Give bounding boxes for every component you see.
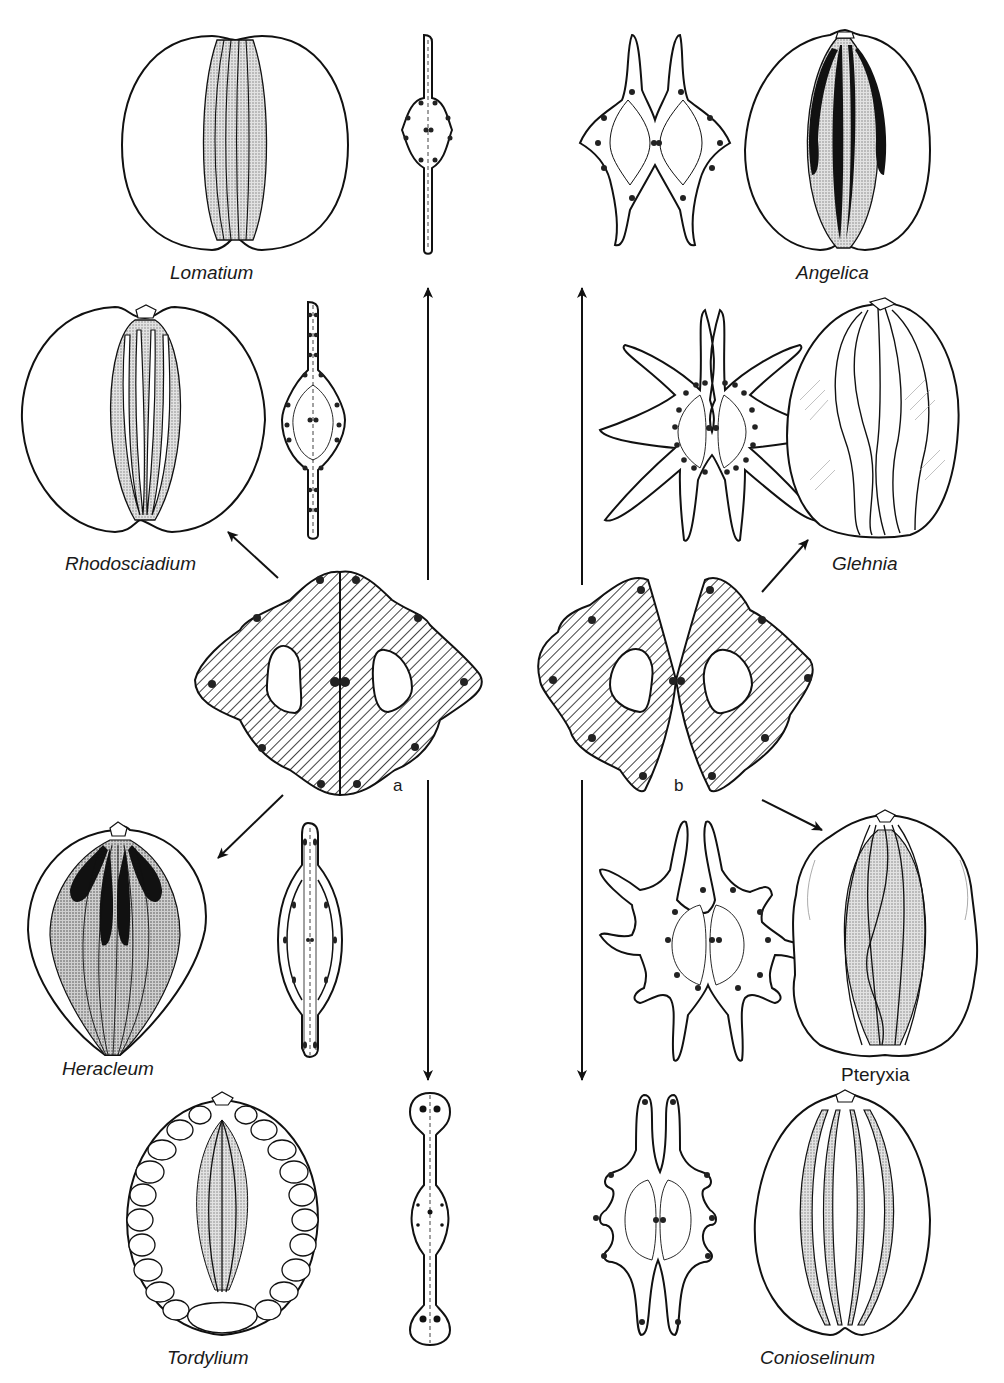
diagram-canvas <box>0 0 1004 1383</box>
label-lomatium: Lomatium <box>170 262 253 284</box>
label-heracleum: Heracleum <box>62 1058 154 1080</box>
lomatium-fruit <box>122 36 348 250</box>
label-type-a: a <box>393 776 402 796</box>
heracleum-cross-section <box>278 823 342 1057</box>
arrow-a-to-rhodosciadium <box>228 532 278 578</box>
conioselinum-fruit <box>755 1090 930 1335</box>
label-pteryxia: Pteryxia <box>841 1064 910 1086</box>
tordylium-cross-section <box>410 1093 450 1345</box>
arrow-a-to-heracleum <box>218 795 283 858</box>
pteryxia-fruit <box>793 810 977 1056</box>
conioselinum-cross-section <box>593 1095 716 1335</box>
pteryxia-cross-section <box>600 821 822 1060</box>
angelica-cross-section <box>580 35 730 245</box>
lomatium-cross-section <box>402 35 453 254</box>
cross-section-type-b <box>538 578 813 791</box>
heracleum-fruit <box>28 822 206 1055</box>
label-glehnia: Glehnia <box>832 553 898 575</box>
rhodosciadium-cross-section <box>282 302 345 539</box>
label-tordylium: Tordylium <box>167 1347 249 1369</box>
fruit-morphology-diagram: Lomatium Angelica Rhodosciadium Glehnia … <box>0 0 1004 1383</box>
angelica-fruit <box>745 30 930 250</box>
label-rhodosciadium: Rhodosciadium <box>65 553 196 575</box>
label-conioselinum: Conioselinum <box>760 1347 875 1369</box>
tordylium-fruit <box>127 1092 318 1335</box>
arrow-b-to-pteryxia <box>762 800 822 830</box>
rhodosciadium-fruit <box>22 305 265 532</box>
glehnia-fruit <box>787 298 958 538</box>
label-type-b: b <box>674 776 683 796</box>
label-angelica: Angelica <box>796 262 869 284</box>
cross-section-type-a <box>195 571 482 795</box>
arrow-b-to-glehnia <box>762 540 808 592</box>
